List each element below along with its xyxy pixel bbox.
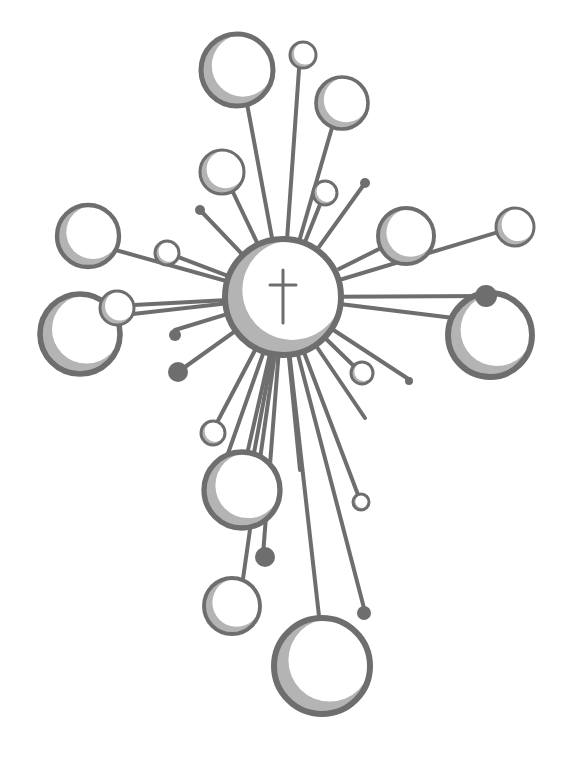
ring-node bbox=[100, 291, 134, 325]
dot-node bbox=[405, 377, 413, 385]
ring-node bbox=[351, 362, 373, 384]
dot-node bbox=[360, 178, 370, 188]
ring-node bbox=[313, 181, 337, 205]
dot-node bbox=[168, 362, 188, 382]
illustration: Cross of circles and radiating lines bbox=[0, 0, 571, 776]
dot-node bbox=[195, 205, 205, 215]
dot-node bbox=[255, 547, 275, 567]
ring-node bbox=[201, 421, 225, 445]
dot-node bbox=[475, 285, 497, 307]
ring-node bbox=[201, 34, 274, 106]
center-circle bbox=[225, 239, 342, 355]
ring-node bbox=[378, 208, 435, 264]
ring-node bbox=[57, 205, 120, 267]
ring-node bbox=[496, 208, 534, 246]
dot-node bbox=[357, 606, 371, 620]
ring-node bbox=[353, 494, 369, 510]
dot-node bbox=[169, 329, 181, 341]
ring-node bbox=[204, 578, 261, 634]
ring-node bbox=[274, 618, 371, 714]
outer-circles bbox=[40, 34, 534, 714]
ring-node bbox=[204, 452, 281, 528]
ring-node bbox=[155, 241, 179, 265]
ring-node bbox=[200, 150, 244, 194]
ring-node bbox=[316, 77, 369, 129]
ring-node bbox=[290, 42, 316, 68]
cross-artwork bbox=[0, 0, 571, 776]
